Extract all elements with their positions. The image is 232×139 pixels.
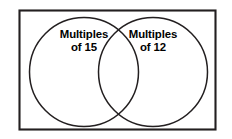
venn-diagram-figure: Multiples of 15 Multiples of 12 <box>0 0 232 139</box>
set-label-right-line-2: of 12 <box>95 41 211 54</box>
set-label-right: Multiples of 12 <box>95 28 211 53</box>
venn-diagram-graphic <box>0 0 232 139</box>
set-label-right-line-1: Multiples <box>95 28 211 41</box>
